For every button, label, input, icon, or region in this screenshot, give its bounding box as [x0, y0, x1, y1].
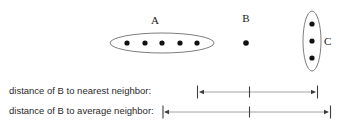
cluster-a-point — [124, 40, 129, 45]
cluster-a-label: A — [151, 14, 159, 26]
measure-average-group: distance of B to average neighbor: — [9, 105, 331, 119]
cluster-a-point — [177, 40, 182, 45]
cluster-a-group: A — [110, 14, 214, 53]
cluster-b-point — [243, 40, 249, 46]
cluster-a-point — [194, 40, 199, 45]
measure-nearest-right-arrow — [311, 90, 316, 94]
measure-average-label: distance of B to average neighbor: — [9, 105, 154, 116]
measure-average-left-arrow — [164, 110, 169, 114]
cluster-b-label: B — [242, 12, 249, 24]
figure-canvas: A B C distance of B to nearest neighbor: — [0, 0, 343, 124]
cluster-c-point — [309, 38, 314, 43]
cluster-b-group: B — [242, 12, 249, 46]
cluster-a-point — [159, 40, 164, 45]
measure-average-right-arrow — [324, 110, 329, 114]
measure-nearest-group: distance of B to nearest neighbor: — [9, 85, 318, 99]
measure-nearest-left-arrow — [199, 90, 204, 94]
cluster-c-point — [309, 21, 314, 26]
cluster-c-group: C — [303, 11, 331, 71]
cluster-c-point — [309, 55, 314, 60]
cluster-a-point — [142, 40, 147, 45]
measure-nearest-label: distance of B to nearest neighbor: — [9, 85, 151, 96]
outlier-distance-figure: A B C distance of B to nearest neighbor: — [0, 0, 343, 124]
cluster-c-label: C — [324, 35, 331, 47]
